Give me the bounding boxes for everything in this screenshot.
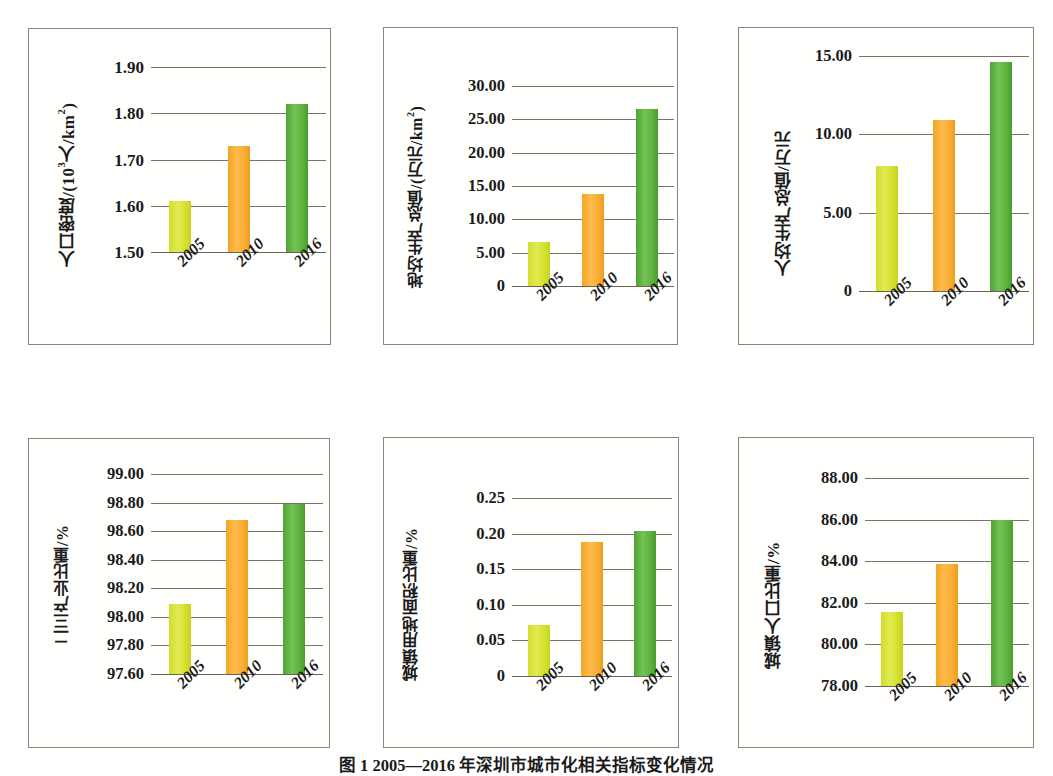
plot-area: 00.050.100.150.200.25200520102016: [512, 498, 672, 676]
y-tick-label: 0.25: [476, 490, 512, 507]
bar-2010: [582, 194, 604, 286]
bar-2016: [991, 520, 1013, 686]
chart-panel-gdp-per-land: 地均生产总值/(万元/km2)05.0010.0015.0020.0025.00…: [383, 27, 678, 345]
figure-caption: 图 1 2005—2016 年深圳市城市化相关指标变化情况: [0, 752, 1053, 776]
bar-chart-urban-population-share: 城镇人口比重/%78.0080.0082.0084.0086.0088.0020…: [739, 438, 1033, 747]
gridline: [512, 498, 672, 499]
y-tick-label: 98.20: [107, 580, 151, 597]
gridline: [512, 86, 674, 87]
y-tick-label: 82.00: [821, 595, 865, 612]
y-tick-label: 98.80: [107, 494, 151, 511]
y-tick-label: 0.20: [476, 525, 512, 542]
plot-area: 97.6097.8098.0098.2098.4098.6098.8099.00…: [151, 474, 323, 674]
y-tick-label: 0: [844, 283, 859, 300]
y-tick-label: 15.00: [815, 48, 859, 65]
bar-2016: [636, 109, 658, 286]
y-tick-label: 1.90: [114, 59, 151, 76]
bar-2010: [581, 542, 603, 676]
chart-panel-population-density: 人口密度/(103人/km2)1.501.601.701.801.9020052…: [28, 28, 331, 345]
y-tick-label: 0: [497, 668, 512, 685]
bar-2010: [933, 120, 955, 291]
plot-area: 78.0080.0082.0084.0086.0088.002005201020…: [865, 478, 1029, 686]
gridline: [865, 478, 1029, 479]
y-tick-label: 80.00: [821, 636, 865, 653]
y-tick-label: 98.40: [107, 551, 151, 568]
y-tick-label: 78.00: [821, 678, 865, 695]
y-tick-label: 0: [497, 278, 512, 295]
y-tick-label: 0.15: [476, 561, 512, 578]
bar-chart-gdp-per-capita: 人均生产总值/万元05.0010.0015.00200520102016: [739, 28, 1033, 344]
bar-2016: [634, 531, 656, 676]
y-tick-label: 0.10: [476, 597, 512, 614]
y-tick-label: 99.00: [107, 466, 151, 483]
chart-panel-secondary-tertiary-industry-share: 二三产业比重/%97.6097.8098.0098.2098.4098.6098…: [28, 438, 330, 748]
y-tick-label: 10.00: [468, 211, 512, 228]
y-tick-label: 86.00: [821, 511, 865, 528]
bar-2010: [226, 520, 248, 674]
gridline: [151, 67, 326, 68]
y-axis-label: 人口密度/(103人/km2): [57, 57, 77, 312]
y-tick-label: 1.80: [114, 105, 151, 122]
bar-2016: [286, 104, 308, 252]
y-tick-label: 97.80: [107, 637, 151, 654]
bar-chart-secondary-tertiary-industry-share: 二三产业比重/%97.6097.8098.0098.2098.4098.6098…: [29, 439, 329, 747]
y-tick-label: 25.00: [468, 111, 512, 128]
gridline: [859, 56, 1029, 57]
y-tick-label: 30.00: [468, 78, 512, 95]
y-tick-label: 20.00: [468, 144, 512, 161]
y-axis-label: 城镇人口比重/%: [765, 496, 782, 714]
y-tick-label: 1.60: [114, 197, 151, 214]
y-tick-label: 88.00: [821, 470, 865, 487]
y-tick-label: 84.00: [821, 553, 865, 570]
bar-2016: [990, 62, 1012, 291]
y-axis-label: 人均生产总值/万元: [775, 88, 792, 318]
y-tick-label: 15.00: [468, 178, 512, 195]
y-tick-label: 0.05: [476, 632, 512, 649]
y-tick-label: 5.00: [476, 244, 512, 261]
bar-2005: [876, 166, 898, 291]
plot-area: 1.501.601.701.801.90200520102016: [151, 67, 326, 252]
chart-panel-urban-land-area-share: 城镇用地面积比重/%00.050.100.150.200.25200520102…: [383, 437, 679, 748]
bar-chart-gdp-per-land: 地均生产总值/(万元/km2)05.0010.0015.0020.0025.00…: [384, 28, 677, 344]
y-tick-label: 97.60: [107, 666, 151, 683]
y-tick-label: 10.00: [815, 126, 859, 143]
y-tick-label: 1.70: [114, 151, 151, 168]
bar-chart-population-density: 人口密度/(103人/km2)1.501.601.701.801.9020052…: [29, 29, 330, 344]
y-tick-label: 1.50: [114, 244, 151, 261]
plot-area: 05.0010.0015.0020.0025.0030.002005201020…: [512, 86, 674, 286]
bar-2016: [283, 504, 305, 674]
y-tick-label: 5.00: [823, 204, 859, 221]
bar-2010: [936, 564, 958, 686]
gridline: [151, 474, 323, 475]
chart-panel-urban-population-share: 城镇人口比重/%78.0080.0082.0084.0086.0088.0020…: [738, 437, 1034, 748]
bar-2010: [228, 146, 250, 252]
y-axis-label: 城镇用地面积比重/%: [404, 474, 420, 734]
bar-chart-urban-land-area-share: 城镇用地面积比重/%00.050.100.150.200.25200520102…: [384, 438, 678, 747]
y-tick-label: 98.00: [107, 609, 151, 626]
chart-panel-gdp-per-capita: 人均生产总值/万元05.0010.0015.00200520102016: [738, 27, 1034, 345]
plot-area: 05.0010.0015.00200520102016: [859, 56, 1029, 291]
y-axis-label: 地均生产总值/(万元/km2): [406, 52, 425, 342]
y-tick-label: 98.60: [107, 523, 151, 540]
y-axis-label: 二三产业比重/%: [55, 465, 71, 705]
